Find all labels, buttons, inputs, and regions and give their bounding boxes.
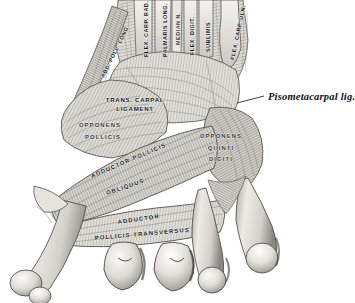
label-opponens-quinti-line3: DIGITI bbox=[209, 156, 233, 162]
label-flex-digit: FLEX. DIGIT. bbox=[189, 16, 195, 55]
label-flex-carp-rad: FLEX. CARP. RAD. bbox=[143, 1, 149, 57]
label-sublimis: SUBLIMIS bbox=[205, 22, 211, 52]
anatomical-figure: ABD. POLL. LONG. FLEX. CARP. RAD. PALMAR… bbox=[0, 0, 355, 303]
label-median-nerve: MEDIAN N. bbox=[175, 12, 181, 45]
metacarpal-head-5 bbox=[246, 243, 278, 273]
label-opponens-pollicis-line1: OPPONENS bbox=[79, 122, 121, 128]
label-opponens-quinti-line1: OPPONENS bbox=[200, 133, 242, 139]
hand-anatomy-illustration: ABD. POLL. LONG. FLEX. CARP. RAD. PALMAR… bbox=[0, 0, 355, 303]
metacarpal-head-4 bbox=[198, 267, 226, 293]
label-pisometacarpal-lig: Pisometacarpal lig. bbox=[268, 91, 355, 102]
thumb-sesamoid bbox=[29, 287, 51, 303]
label-trans-carpal-line2: LIGAMENT bbox=[116, 105, 153, 112]
label-opponens-quinti-line2: QUINTI bbox=[208, 145, 235, 151]
label-palmaris-long: PALMARIS LONG. bbox=[162, 3, 168, 57]
label-opponens-pollicis-line2: POLLICIS bbox=[85, 134, 121, 140]
label-trans-carpal-line1: TRANS. CARPAL bbox=[106, 96, 164, 103]
